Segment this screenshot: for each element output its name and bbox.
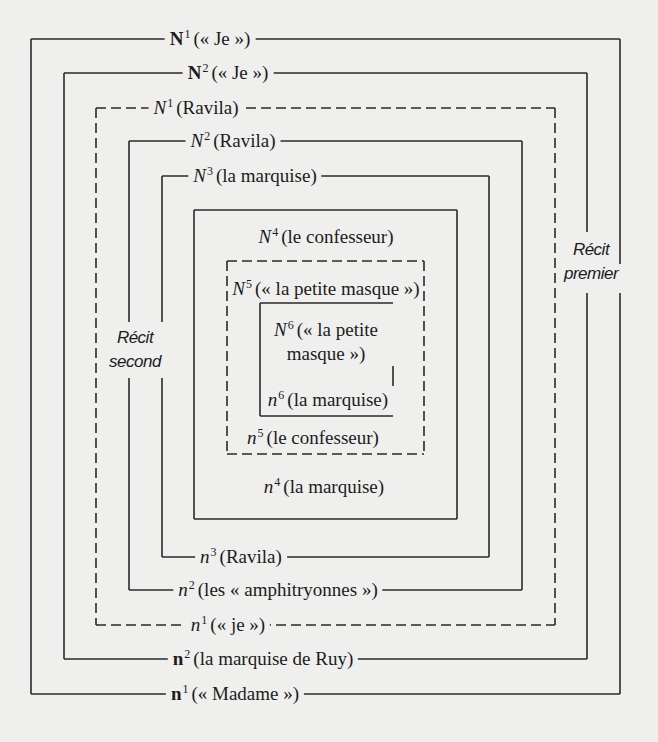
symbol: n <box>171 683 182 704</box>
label-text: (le confesseur) <box>281 226 393 247</box>
label-text: (Ravila) <box>220 546 282 567</box>
frame-3-bottom-label: n1(« je ») <box>186 614 270 636</box>
symbol: N <box>274 319 287 340</box>
frame-1-bottom-label: n1(« Madame ») <box>166 683 304 705</box>
label-text: (la marquise) <box>283 476 384 497</box>
symbol: n <box>268 389 278 410</box>
frame-5-bottom-label: n3(Ravila) <box>195 546 287 568</box>
superscript: 6 <box>288 318 294 332</box>
frame-5-top-label: N3(la marquise) <box>188 165 321 187</box>
superscript: 3 <box>207 164 213 178</box>
symbol: n <box>264 476 274 497</box>
recit-second-line-2: second <box>106 350 164 374</box>
symbol: N <box>191 130 204 151</box>
superscript: 2 <box>202 61 208 75</box>
symbol: N <box>188 62 202 83</box>
superscript: 5 <box>246 277 252 291</box>
symbol: N <box>154 97 167 118</box>
frame-4-top-label: N2(Ravila) <box>186 130 281 152</box>
symbol: N <box>193 165 206 186</box>
superscript: 1 <box>184 27 190 41</box>
label-text: (les « amphitryonnes ») <box>198 579 378 600</box>
recit-premier-line-2: premier <box>559 262 623 286</box>
label-text: (la marquise) <box>287 389 388 410</box>
label-text: (Ravila) <box>213 130 275 151</box>
symbol: n <box>200 546 210 567</box>
frame-3 <box>96 108 555 625</box>
superscript: 1 <box>182 682 188 696</box>
label-text: (« la petite masque ») <box>255 278 420 299</box>
superscript: 5 <box>258 426 264 440</box>
superscript: 4 <box>272 225 278 239</box>
frame-3-top-label: N1(Ravila) <box>149 97 244 119</box>
frame-1-top-label: N1(« Je ») <box>165 28 256 50</box>
frame-4-bottom-label: n2(les « amphitryonnes ») <box>173 579 382 601</box>
frame-6-top-label: N4(le confesseur) <box>258 226 393 248</box>
frame-8-bottom-label: n6(la marquise) <box>268 389 388 411</box>
superscript: 1 <box>201 613 207 627</box>
superscript: 6 <box>278 388 284 402</box>
superscript: 2 <box>189 578 195 592</box>
frame-8-top-label: N6(« la petite masque ») <box>256 318 396 366</box>
label-text: (« la petite masque ») <box>287 319 378 364</box>
recit-premier-line-1: Récit <box>559 238 623 262</box>
symbol: n <box>247 427 257 448</box>
symbol: n <box>173 648 184 669</box>
label-text: (la marquise) <box>216 165 317 186</box>
frame-6-bottom-label: n4(la marquise) <box>264 476 384 498</box>
recit-second-line-1: Récit <box>106 326 164 350</box>
label-text: (« Je ») <box>211 62 268 83</box>
symbol: N <box>170 28 184 49</box>
label-text: (Ravila) <box>176 97 238 118</box>
superscript: 2 <box>204 129 210 143</box>
superscript: 2 <box>184 647 190 661</box>
frame-2-top-label: N2(« Je ») <box>183 62 274 84</box>
label-text: (« Madame ») <box>191 683 299 704</box>
superscript: 1 <box>167 96 173 110</box>
label-text: (« Je ») <box>193 28 250 49</box>
frame-7-top-label: N5(« la petite masque ») <box>230 278 421 300</box>
label-text: (« je ») <box>210 614 265 635</box>
superscript: 3 <box>211 545 217 559</box>
frame-lines <box>0 0 658 742</box>
recit-premier-label: Récit premier <box>559 236 623 288</box>
symbol: N <box>232 278 245 299</box>
frame-7-bottom-label: n5(le confesseur) <box>247 427 379 449</box>
label-text: (la marquise de Ruy) <box>193 648 353 669</box>
frame-2-bottom-label: n2(la marquise de Ruy) <box>168 648 358 670</box>
superscript: 4 <box>274 475 280 489</box>
symbol: n <box>178 579 188 600</box>
symbol: n <box>191 614 201 635</box>
label-text: (le confesseur) <box>267 427 379 448</box>
symbol: N <box>258 226 271 247</box>
recit-second-label: Récit second <box>106 324 164 376</box>
